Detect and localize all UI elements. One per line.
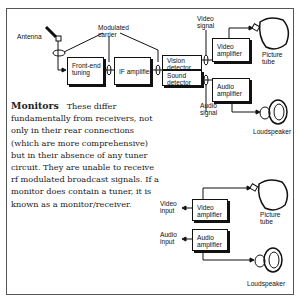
modulated-carrier-label: Modulated carrier [98,24,129,38]
picture-tube-label-bottom: Picture tube [260,211,281,225]
monitors-heading: Monitors [11,100,59,111]
antenna-label: Antenna [17,33,42,40]
sound-detector-block: Sound detector [162,70,202,86]
video-amplifier-block-bottom: Video amplifier [192,199,228,221]
front-end-tuning-block: Front-end tuning [67,57,104,85]
picture-tube-label: Picture tube [262,51,283,65]
audio-amplifier-block: Audio amplifier [212,78,250,102]
audio-input-label: Audio input [160,231,177,245]
audio-amplifier-block-bottom: Audio amplifier [192,229,228,251]
monitors-description: Monitors These differ fundamentally from… [11,100,161,210]
loudspeaker-label-bottom: Loudspeaker [247,280,285,287]
vision-detector-block: Vision detector [162,55,202,70]
video-signal-label: Video signal [197,15,214,29]
loudspeaker-label: Loudspeaker [253,128,291,135]
video-amplifier-block: Video amplifier [212,38,250,62]
monitors-body: These differ fundamentally from receiver… [11,101,159,209]
video-input-label: Video input [160,200,177,214]
if-amplifier-block: IF amplifier [114,57,151,85]
audio-signal-label: Audio signal [200,102,217,116]
